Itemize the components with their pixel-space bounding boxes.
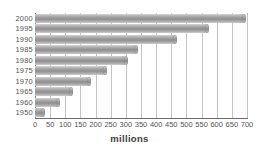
chart-title-clipped [30, 0, 230, 3]
bar-1975 [35, 66, 106, 75]
y-tick-label-1950: 1950 [1, 108, 33, 117]
x-axis-line [35, 118, 248, 119]
bar-row [35, 24, 247, 35]
x-tick-label-400: 400 [150, 120, 163, 130]
y-tick-label-2000: 2000 [1, 14, 33, 23]
bar-1980 [35, 56, 127, 65]
bar-1965 [35, 87, 72, 96]
x-tick-label-450: 450 [165, 120, 178, 130]
bar-1950 [35, 108, 44, 117]
x-tick-label-150: 150 [74, 120, 87, 130]
x-tick-label-350: 350 [135, 120, 148, 130]
y-tick-label-1960: 1960 [1, 98, 33, 107]
bar-row [35, 98, 247, 109]
bar-row [35, 35, 247, 46]
bar-1960 [35, 98, 59, 107]
y-tick-label-1995: 1995 [1, 24, 33, 33]
x-tick-label-50: 50 [46, 120, 54, 130]
bar-row [35, 66, 247, 77]
bar-1995 [35, 24, 208, 33]
bar-row [35, 87, 247, 98]
gridline-700 [247, 13, 248, 118]
bar-row [35, 77, 247, 88]
y-axis-labels: 2000199519901985198019751970196519601950 [0, 13, 33, 118]
plot-area [35, 13, 247, 118]
bar-1970 [35, 77, 90, 86]
bar-chart: 2000199519901985198019751970196519601950… [0, 0, 259, 151]
x-tick-label-200: 200 [89, 120, 102, 130]
x-tick-label-250: 250 [104, 120, 117, 130]
bar-1985 [35, 45, 137, 54]
y-tick-label-1980: 1980 [1, 56, 33, 65]
x-tick-label-550: 550 [195, 120, 208, 130]
x-axis-title: millions [0, 133, 259, 144]
y-tick-label-1975: 1975 [1, 66, 33, 75]
bar-2000 [35, 14, 245, 23]
x-axis-tick-labels: 0501001502002503003504004505005506006507… [0, 120, 259, 132]
x-tick-label-500: 500 [180, 120, 193, 130]
y-tick-label-1965: 1965 [1, 87, 33, 96]
bar-row [35, 56, 247, 67]
x-tick-label-100: 100 [59, 120, 72, 130]
bar-row [35, 45, 247, 56]
bar-row [35, 14, 247, 25]
x-tick-label-0: 0 [33, 120, 37, 130]
x-tick-label-300: 300 [120, 120, 133, 130]
x-tick-label-700: 700 [241, 120, 254, 130]
x-tick-label-600: 600 [210, 120, 223, 130]
bar-1990 [35, 35, 176, 44]
y-tick-label-1970: 1970 [1, 77, 33, 86]
y-tick-label-1985: 1985 [1, 45, 33, 54]
y-tick-label-1990: 1990 [1, 35, 33, 44]
x-tick-label-650: 650 [226, 120, 239, 130]
